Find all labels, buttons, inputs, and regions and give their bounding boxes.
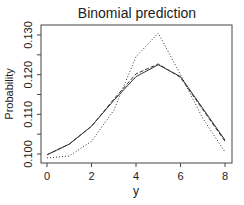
series-dashed-line — [47, 64, 225, 155]
y-tick-label: 0.100 — [22, 140, 34, 168]
y-axis: 0.1000.1100.1200.130 — [22, 21, 41, 168]
series-dotted-line — [47, 33, 225, 158]
plot-frame — [41, 25, 232, 163]
x-tick-label: 6 — [177, 170, 183, 182]
y-tick-label: 0.110 — [22, 101, 34, 128]
binomial-prediction-chart: Binomial prediction 0.1000.1100.1200.130… — [0, 0, 244, 205]
y-tick-label: 0.120 — [22, 61, 34, 89]
x-tick-label: 4 — [133, 170, 139, 182]
y-axis-label: Probability — [3, 68, 15, 120]
x-axis: 02468 — [44, 163, 228, 182]
chart-title: Binomial prediction — [78, 5, 196, 21]
series-lines — [47, 33, 225, 158]
x-tick-label: 0 — [44, 170, 50, 182]
x-tick-label: 2 — [88, 170, 94, 182]
x-tick-label: 8 — [222, 170, 228, 182]
x-axis-label: y — [133, 184, 139, 198]
y-tick-label: 0.130 — [22, 21, 34, 49]
